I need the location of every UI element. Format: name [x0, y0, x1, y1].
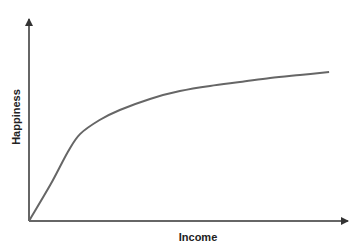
y-axis-label: Happiness — [10, 89, 22, 145]
x-axis-label: Income — [179, 231, 218, 243]
happiness-curve — [29, 72, 329, 221]
chart-svg — [0, 0, 359, 248]
chart-area: Happiness Income — [0, 0, 359, 248]
